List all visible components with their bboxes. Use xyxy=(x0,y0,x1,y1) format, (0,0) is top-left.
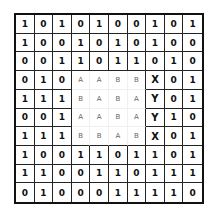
grid-cell-r1-c7: 1 xyxy=(146,34,165,53)
grid-cell-r4-c0: 1 xyxy=(16,90,35,109)
grid-cell-r6-c6: B xyxy=(128,127,147,146)
grid-cell-r7-c2: 0 xyxy=(53,146,72,165)
grid-cell-r3-c3: A xyxy=(72,71,91,90)
binary-grid: 101010010110010101000011011010010AABBX01… xyxy=(14,13,204,204)
grid-cell-r9-c2: 0 xyxy=(53,183,72,202)
grid-cell-r2-c6: 1 xyxy=(128,52,147,71)
grid-cell-r8-c5: 1 xyxy=(109,165,128,184)
grid-cell-r8-c9: 1 xyxy=(183,165,202,184)
grid-cell-r7-c7: 1 xyxy=(146,146,165,165)
grid-cell-r3-c9: 1 xyxy=(183,71,202,90)
grid-cell-r2-c4: 0 xyxy=(90,52,109,71)
grid-cell-r1-c8: 0 xyxy=(165,34,184,53)
grid-cell-r8-c0: 1 xyxy=(16,165,35,184)
grid-cell-r2-c3: 1 xyxy=(72,52,91,71)
grid-cell-r2-c0: 0 xyxy=(16,52,35,71)
grid-cell-r0-c9: 1 xyxy=(183,15,202,34)
grid-cell-r7-c0: 1 xyxy=(16,146,35,165)
grid-cell-r8-c7: 1 xyxy=(146,165,165,184)
grid-cell-r7-c5: 0 xyxy=(109,146,128,165)
grid-cell-r3-c8: 0 xyxy=(165,71,184,90)
grid-cell-r4-c7: Y xyxy=(146,90,165,109)
grid-cell-r8-c3: 0 xyxy=(72,165,91,184)
grid-cell-r4-c5: B xyxy=(109,90,128,109)
grid-cell-r6-c0: 1 xyxy=(16,127,35,146)
grid-cell-r2-c1: 0 xyxy=(35,52,54,71)
grid-cell-r5-c5: B xyxy=(109,109,128,128)
grid-cell-r9-c8: 1 xyxy=(165,183,184,202)
grid-cell-r7-c9: 1 xyxy=(183,146,202,165)
grid-cell-r1-c6: 0 xyxy=(128,34,147,53)
grid-cell-r2-c8: 1 xyxy=(165,52,184,71)
grid-cell-r1-c5: 1 xyxy=(109,34,128,53)
grid-cell-r9-c6: 1 xyxy=(128,183,147,202)
grid-cell-r8-c2: 0 xyxy=(53,165,72,184)
grid-cell-r1-c4: 0 xyxy=(90,34,109,53)
grid-cell-r7-c8: 0 xyxy=(165,146,184,165)
grid-cell-r8-c4: 1 xyxy=(90,165,109,184)
grid-cell-r0-c7: 1 xyxy=(146,15,165,34)
grid-cell-r5-c7: Y xyxy=(146,109,165,128)
grid-cell-r0-c5: 0 xyxy=(109,15,128,34)
grid-cell-r5-c3: A xyxy=(72,109,91,128)
grid-cell-r5-c8: 1 xyxy=(165,109,184,128)
grid-cell-r1-c3: 1 xyxy=(72,34,91,53)
grid-cell-r6-c4: B xyxy=(90,127,109,146)
grid-cell-r4-c9: 1 xyxy=(183,90,202,109)
grid-cell-r4-c8: 0 xyxy=(165,90,184,109)
grid-cell-r6-c5: A xyxy=(109,127,128,146)
grid-cell-r7-c1: 0 xyxy=(35,146,54,165)
grid-cell-r7-c6: 1 xyxy=(128,146,147,165)
grid-cell-r1-c0: 1 xyxy=(16,34,35,53)
grid-cell-r0-c3: 0 xyxy=(72,15,91,34)
grid-cell-r8-c6: 0 xyxy=(128,165,147,184)
grid-cell-r3-c1: 1 xyxy=(35,71,54,90)
grid-cell-r0-c8: 0 xyxy=(165,15,184,34)
grid-cell-r3-c6: B xyxy=(128,71,147,90)
grid-cell-r9-c5: 1 xyxy=(109,183,128,202)
grid-cell-r9-c4: 0 xyxy=(90,183,109,202)
grid-cell-r4-c2: 1 xyxy=(53,90,72,109)
grid-cell-r1-c1: 0 xyxy=(35,34,54,53)
grid-cell-r9-c9: 0 xyxy=(183,183,202,202)
grid-cell-r3-c2: 0 xyxy=(53,71,72,90)
grid-cell-r4-c3: B xyxy=(72,90,91,109)
grid-cell-r3-c0: 0 xyxy=(16,71,35,90)
grid-cell-r6-c1: 1 xyxy=(35,127,54,146)
grid-cell-r0-c0: 1 xyxy=(16,15,35,34)
grid-cell-r9-c0: 0 xyxy=(16,183,35,202)
grid-cell-r7-c4: 1 xyxy=(90,146,109,165)
grid-cell-r5-c4: A xyxy=(90,109,109,128)
grid-cell-r7-c3: 1 xyxy=(72,146,91,165)
grid-cell-r2-c2: 1 xyxy=(53,52,72,71)
grid-cell-r9-c1: 1 xyxy=(35,183,54,202)
grid-cell-r2-c5: 1 xyxy=(109,52,128,71)
grid-cell-r9-c3: 0 xyxy=(72,183,91,202)
grid-cell-r8-c1: 1 xyxy=(35,165,54,184)
grid-cell-r0-c2: 1 xyxy=(53,15,72,34)
grid-cell-r6-c2: 1 xyxy=(53,127,72,146)
grid-cell-r4-c6: A xyxy=(128,90,147,109)
grid-cell-r5-c2: 1 xyxy=(53,109,72,128)
grid-cell-r1-c9: 0 xyxy=(183,34,202,53)
grid-cell-r5-c0: 0 xyxy=(16,109,35,128)
grid-cell-r0-c6: 0 xyxy=(128,15,147,34)
grid-cell-r4-c4: A xyxy=(90,90,109,109)
grid-cell-r1-c2: 0 xyxy=(53,34,72,53)
grid-cell-r5-c9: 0 xyxy=(183,109,202,128)
grid-cell-r0-c4: 1 xyxy=(90,15,109,34)
grid-cell-r8-c8: 1 xyxy=(165,165,184,184)
grid-cell-r6-c9: 1 xyxy=(183,127,202,146)
grid-cell-r6-c3: B xyxy=(72,127,91,146)
grid-cell-r3-c7: X xyxy=(146,71,165,90)
grid-cell-r2-c9: 0 xyxy=(183,52,202,71)
grid-cell-r5-c1: 0 xyxy=(35,109,54,128)
grid-cell-r9-c7: 1 xyxy=(146,183,165,202)
grid-cell-r6-c8: 0 xyxy=(165,127,184,146)
grid-cell-r3-c5: B xyxy=(109,71,128,90)
grid-cell-r4-c1: 1 xyxy=(35,90,54,109)
grid-cell-r5-c6: A xyxy=(128,109,147,128)
grid-cell-r6-c7: X xyxy=(146,127,165,146)
grid-cell-r3-c4: A xyxy=(90,71,109,90)
grid-cell-r2-c7: 0 xyxy=(146,52,165,71)
